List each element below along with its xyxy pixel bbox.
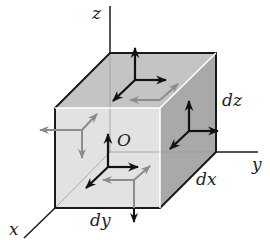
x-axis	[24, 208, 55, 238]
origin-label: O	[117, 130, 131, 150]
z-axis-label: z	[91, 3, 102, 23]
y-axis-label: y	[251, 154, 262, 174]
dx-label: dx	[196, 169, 217, 189]
x-axis-label: x	[9, 219, 19, 239]
dy-label: dy	[90, 210, 111, 230]
stress-element-diagram: z y x O dz dx dy	[0, 0, 270, 240]
dz-label: dz	[222, 90, 243, 110]
